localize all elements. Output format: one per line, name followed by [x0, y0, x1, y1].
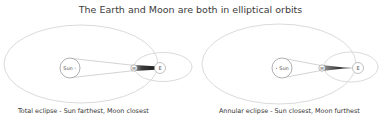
earth-label: E	[356, 65, 359, 71]
total-eclipse-diagram: Sun M E	[4, 25, 192, 103]
sun-label: Sun	[279, 65, 289, 71]
sun-ray-bottom	[72, 71, 135, 78]
annular-eclipse-diagram: Sun M E	[202, 24, 378, 104]
total-eclipse-caption: Total eclipse - Sun farthest, Moon close…	[18, 107, 149, 115]
sun-label: Sun	[63, 65, 73, 71]
earth-label: E	[158, 65, 161, 71]
moon-label: M	[132, 66, 136, 71]
moon-shadow-cone	[135, 65, 155, 71]
eclipse-diagram-canvas: Sun M E Sun M E	[0, 0, 381, 121]
moon-label: M	[320, 66, 324, 71]
annular-eclipse-caption: Annular eclipse - Sun closest, Moon furt…	[219, 107, 360, 115]
sun-ray-top	[72, 59, 135, 66]
sun-center-dot	[276, 68, 277, 69]
moon-shadow-cone	[322, 65, 354, 71]
